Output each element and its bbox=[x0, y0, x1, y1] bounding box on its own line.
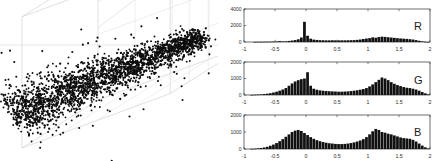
svg-text:0: 0 bbox=[305, 153, 308, 159]
svg-text:1.5: 1.5 bbox=[395, 46, 402, 52]
svg-text:2: 2 bbox=[429, 46, 432, 52]
histogram-panel-b: -1-0.500.511.52010002000 bbox=[218, 108, 440, 161]
svg-text:0: 0 bbox=[239, 39, 242, 45]
histogram-r-canvas: -1-0.500.511.52020004000 bbox=[218, 2, 440, 54]
svg-text:2000: 2000 bbox=[230, 112, 241, 118]
svg-text:1.5: 1.5 bbox=[395, 153, 402, 159]
scatter-points bbox=[0, 17, 216, 161]
scatter-3d-panel bbox=[0, 0, 218, 161]
svg-text:-0.5: -0.5 bbox=[271, 153, 280, 159]
figure-root: -1-0.500.511.52020004000 -1-0.500.511.52… bbox=[0, 0, 440, 161]
svg-text:1: 1 bbox=[367, 99, 370, 105]
svg-text:1.5: 1.5 bbox=[395, 99, 402, 105]
histogram-panel-g: -1-0.500.511.52010002000 bbox=[218, 55, 440, 107]
svg-text:4000: 4000 bbox=[230, 6, 241, 12]
svg-text:0.5: 0.5 bbox=[333, 46, 340, 52]
svg-text:2: 2 bbox=[429, 99, 432, 105]
svg-text:1: 1 bbox=[367, 153, 370, 159]
scatter-3d-canvas bbox=[0, 0, 218, 161]
histogram-g-canvas: -1-0.500.511.52010002000 bbox=[218, 55, 440, 107]
histogram-panel-r: -1-0.500.511.52020004000 bbox=[218, 2, 440, 54]
channel-label-r: R bbox=[414, 20, 422, 32]
svg-text:-1: -1 bbox=[242, 153, 247, 159]
svg-text:0.5: 0.5 bbox=[333, 99, 340, 105]
svg-text:-0.5: -0.5 bbox=[271, 99, 280, 105]
svg-text:0: 0 bbox=[239, 92, 242, 98]
svg-text:2000: 2000 bbox=[230, 59, 241, 65]
histogram-b-canvas: -1-0.500.511.52010002000 bbox=[218, 108, 440, 161]
channel-label-b: B bbox=[414, 126, 421, 138]
channel-label-g: G bbox=[414, 74, 423, 86]
svg-text:0: 0 bbox=[239, 146, 242, 152]
svg-text:2: 2 bbox=[429, 153, 432, 159]
histogram-stack: -1-0.500.511.52020004000 -1-0.500.511.52… bbox=[218, 0, 440, 161]
svg-text:0.5: 0.5 bbox=[333, 153, 340, 159]
svg-text:1000: 1000 bbox=[230, 75, 241, 81]
svg-text:0: 0 bbox=[305, 99, 308, 105]
svg-text:2000: 2000 bbox=[230, 22, 241, 28]
svg-text:0: 0 bbox=[305, 46, 308, 52]
svg-text:1: 1 bbox=[367, 46, 370, 52]
svg-text:-0.5: -0.5 bbox=[271, 46, 280, 52]
svg-text:-1: -1 bbox=[242, 99, 247, 105]
svg-text:-1: -1 bbox=[242, 46, 247, 52]
svg-text:1000: 1000 bbox=[230, 129, 241, 135]
